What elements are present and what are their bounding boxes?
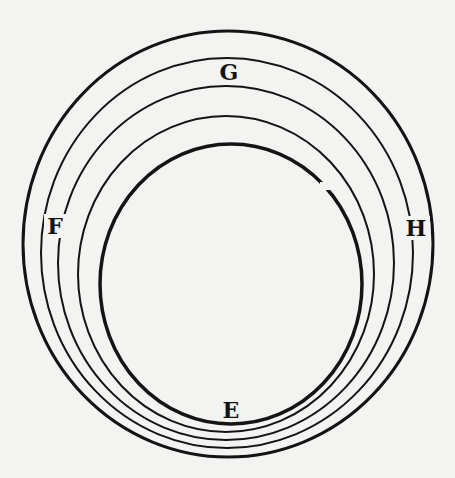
inner-ring-gap-left — [101, 192, 113, 206]
label-f: F — [47, 213, 63, 239]
ring-4 — [78, 116, 374, 432]
rings-group — [23, 31, 433, 457]
gaps-group — [101, 182, 330, 206]
labels-group: G F H E — [44, 59, 430, 423]
diagram-canvas: G F H E — [0, 0, 455, 478]
label-e: E — [223, 397, 240, 423]
label-h: H — [406, 215, 427, 241]
ring-3 — [58, 86, 394, 440]
label-g: G — [220, 59, 239, 85]
inner-ring-gap-right — [320, 182, 330, 190]
concentric-ellipses-figure: G F H E — [0, 0, 455, 478]
